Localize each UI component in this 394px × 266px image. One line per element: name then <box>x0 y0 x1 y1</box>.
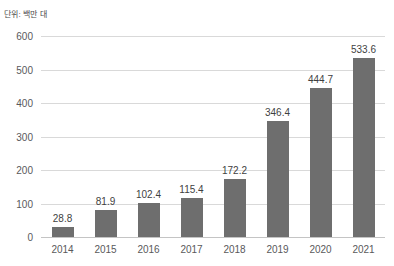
y-tick-label: 500 <box>0 64 33 75</box>
bar-2021[interactable] <box>353 58 375 237</box>
bar-value-label: 28.8 <box>33 213 93 224</box>
gridline-300 <box>41 137 385 138</box>
x-tick-label: 2021 <box>334 244 394 255</box>
y-tick-label: 100 <box>0 198 33 209</box>
bar-2018[interactable] <box>224 179 246 237</box>
bar-value-label: 172.2 <box>205 165 265 176</box>
bar-2019[interactable] <box>267 121 289 237</box>
chart-page: 단위: 백만 대 0100200300400500600 20142015201… <box>0 0 394 266</box>
gridline-400 <box>41 103 385 104</box>
y-tick-label: 600 <box>0 31 33 42</box>
unit-caption: 단위: 백만 대 <box>4 8 47 19</box>
y-tick-label: 200 <box>0 165 33 176</box>
bar-2020[interactable] <box>310 88 332 237</box>
y-tick-label: 400 <box>0 98 33 109</box>
bar-2015[interactable] <box>95 210 117 237</box>
y-tick-label: 0 <box>0 232 33 243</box>
bar-value-label: 346.4 <box>248 107 308 118</box>
y-tick-label: 300 <box>0 131 33 142</box>
gridline-0 <box>41 237 385 238</box>
plot-area <box>41 36 385 237</box>
bar-2016[interactable] <box>138 203 160 237</box>
bar-2017[interactable] <box>181 198 203 237</box>
gridline-600 <box>41 36 385 37</box>
bar-value-label: 115.4 <box>162 184 222 195</box>
bar-value-label: 533.6 <box>334 44 394 55</box>
bar-value-label: 444.7 <box>291 74 351 85</box>
bar-2014[interactable] <box>52 227 74 237</box>
gridline-500 <box>41 70 385 71</box>
